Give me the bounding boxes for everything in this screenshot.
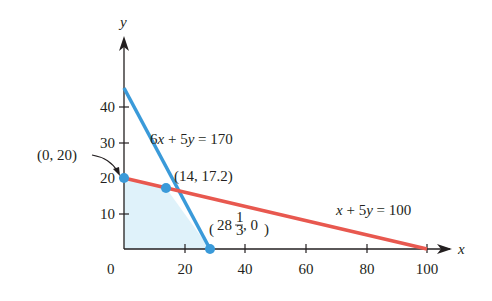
x-tick-label-80: 80 xyxy=(360,261,375,277)
x-axis-label: x xyxy=(457,241,465,257)
point-14-17-2 xyxy=(161,183,171,193)
y-tick-label-30: 30 xyxy=(100,135,115,151)
x-tick-label-40: 40 xyxy=(238,261,253,277)
x-tick-label-100: 100 xyxy=(416,261,439,277)
equation-x-5y-100: x + 5y = 100 xyxy=(335,202,411,218)
label-point-14-17-2: (14, 17.2) xyxy=(174,168,233,185)
y-axis-label: y xyxy=(118,14,127,30)
x-tick-label-60: 60 xyxy=(299,261,314,277)
y-tick-label-20: 20 xyxy=(100,170,115,186)
point-0-20 xyxy=(119,173,129,183)
paren-close: ) xyxy=(264,221,269,238)
point-28-1-3-0 xyxy=(205,244,215,254)
y-tick-label-40: 40 xyxy=(100,99,115,115)
y-tick-label-10: 10 xyxy=(100,206,115,222)
label-point-28-1-3-0: ( 28 1 3 , 0 ) xyxy=(209,209,269,238)
rest-part: , 0 xyxy=(243,217,258,233)
whole-part: 28 xyxy=(217,217,232,233)
x-tick-label-20: 20 xyxy=(178,261,193,277)
origin-label: 0 xyxy=(107,261,115,277)
label-point-0-20: (0, 20) xyxy=(37,147,77,164)
chart: 0 20 40 60 80 100 10 20 30 40 x y (0, 20… xyxy=(0,0,492,301)
paren-open: ( xyxy=(209,221,214,238)
equation-6x-5y-170: 6x + 5y = 170 xyxy=(150,131,233,147)
